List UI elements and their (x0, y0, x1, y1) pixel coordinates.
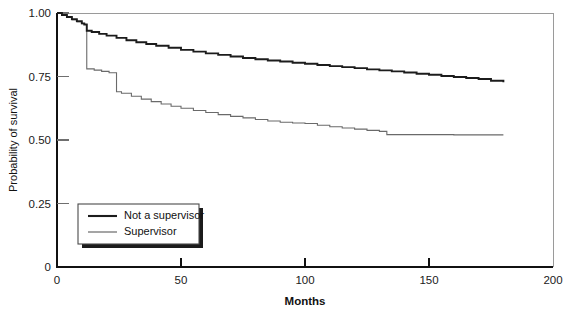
kaplan-meier-plot: 1.00 0.75 0.50 0.25 0 0 50 100 150 200 M… (0, 0, 567, 310)
x-tick-label-50: 50 (175, 274, 188, 286)
y-axis-title: Probability of survival (7, 88, 19, 192)
x-tick-label-100: 100 (295, 274, 314, 286)
x-tick-label-0: 0 (54, 274, 60, 286)
x-tick-label-150: 150 (419, 274, 438, 286)
y-tick-label-100: 1.00 (29, 7, 51, 19)
y-tick-label-0: 0 (45, 261, 51, 273)
x-tick-label-200: 200 (543, 274, 562, 286)
legend: Not a supervisor Supervisor (78, 204, 204, 248)
x-axis-ticks (181, 258, 429, 267)
survival-chart-figure: 1.00 0.75 0.50 0.25 0 0 50 100 150 200 M… (0, 0, 567, 310)
y-tick-label-050: 0.50 (29, 134, 51, 146)
y-tick-label-075: 0.75 (29, 71, 51, 83)
y-axis-ticks (57, 13, 69, 204)
survival-curve-not-a-supervisor (57, 13, 503, 82)
legend-label-supervisor: Supervisor (124, 225, 177, 237)
legend-label-not-a-supervisor: Not a supervisor (124, 209, 204, 221)
y-tick-label-025: 0.25 (29, 198, 51, 210)
x-axis-title: Months (285, 295, 326, 307)
